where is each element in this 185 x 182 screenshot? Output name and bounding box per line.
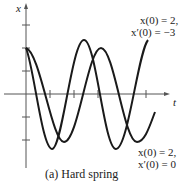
y-axis-label: x	[16, 2, 21, 14]
y-axis-arrow	[24, 3, 28, 9]
chart-caption: (a) Hard spring	[45, 168, 118, 180]
bottom-annotation-line2: x′(0) = 0	[138, 158, 176, 170]
top-annotation-line2: x′(0) = −3	[131, 26, 175, 38]
curve-hard-spring-xp-0	[26, 48, 155, 142]
x-axis-arrow	[164, 92, 170, 96]
x-axis-label: t	[173, 96, 176, 108]
top-annotation-line1: x(0) = 2,	[140, 14, 178, 26]
bottom-annotation-line1: x(0) = 2,	[138, 146, 176, 158]
